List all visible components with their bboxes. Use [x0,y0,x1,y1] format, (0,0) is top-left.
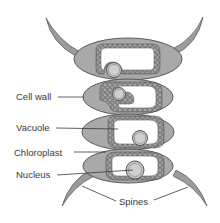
spine-bottom-right [173,170,207,206]
leader-spines-left [82,186,116,201]
cell-4 [83,149,173,183]
label-spines: Spines [119,197,148,207]
label-chloroplast: Chloroplast [14,148,62,158]
label-cell-wall: Cell wall [16,92,51,102]
label-vacuole: Vacuole [16,123,50,133]
label-nucleus: Nucleus [16,170,50,180]
spine-bottom-left [62,170,94,206]
algae-colony-diagram [0,0,220,223]
cell-3 [82,114,174,150]
cell-2 [83,79,173,115]
leader-spines-right [154,187,188,200]
cell-1 [74,38,182,80]
spine-top-left [46,18,80,56]
